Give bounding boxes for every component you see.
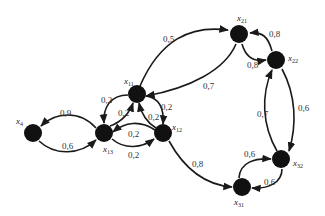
edge-weight-label: 0,8: [247, 60, 259, 70]
edge-weight-label: 0,6: [298, 103, 310, 113]
node-label-x13: x13: [102, 144, 113, 155]
edge-weight-label: 0,2: [101, 95, 112, 105]
edge-x11-to-x21: [140, 29, 228, 86]
node-x13: [95, 124, 113, 142]
edge-weight-label: 0,7: [203, 81, 215, 91]
edge-weight-label: 0,2: [118, 108, 129, 118]
node-x11: [128, 85, 146, 103]
node-x32: [272, 150, 290, 168]
edge-x22-to-x32: [282, 69, 294, 151]
node-x4: [24, 124, 42, 142]
edge-weight-label: 0,6: [244, 149, 256, 159]
edge-weight-label: 0,2: [161, 102, 172, 112]
node-x22: [267, 51, 285, 69]
edge-weight-label: 0,6: [62, 141, 74, 151]
edge-weight-label: 0,2: [148, 112, 159, 122]
edge-weight-label: 0,6: [264, 177, 276, 187]
edge-x31-to-x32: [239, 159, 271, 178]
node-label-x22: x22: [287, 53, 298, 64]
edge-x21-to-x11: [146, 44, 236, 96]
edges-layer: 0,50,70,80,80,60,70,60,60,80,20,20,20,20…: [39, 29, 310, 188]
edge-x21-to-x22: [242, 44, 266, 60]
edge-weight-label: 0,9: [60, 108, 72, 118]
node-x21: [230, 25, 248, 43]
node-label-x31: x31: [233, 197, 244, 208]
node-label-x21: x21: [236, 13, 247, 24]
edge-weight-label: 0,2: [128, 129, 139, 139]
node-x12: [154, 124, 172, 142]
node-label-x4: x4: [15, 116, 23, 127]
node-label-x11: x11: [123, 76, 134, 87]
edge-weight-label: 0,8: [192, 159, 204, 169]
node-label-x32: x32: [292, 158, 303, 169]
node-label-x12: x12: [171, 122, 182, 133]
state-transition-graph: 0,50,70,80,80,60,70,60,60,80,20,20,20,20…: [0, 0, 325, 216]
edge-weight-label: 0,7: [257, 109, 269, 119]
edge-weight-label: 0,2: [128, 150, 139, 160]
edge-x13-to-x12: [112, 139, 154, 147]
node-x31: [233, 178, 251, 196]
edge-weight-label: 0,5: [163, 34, 175, 44]
edge-weight-label: 0,8: [269, 29, 281, 39]
